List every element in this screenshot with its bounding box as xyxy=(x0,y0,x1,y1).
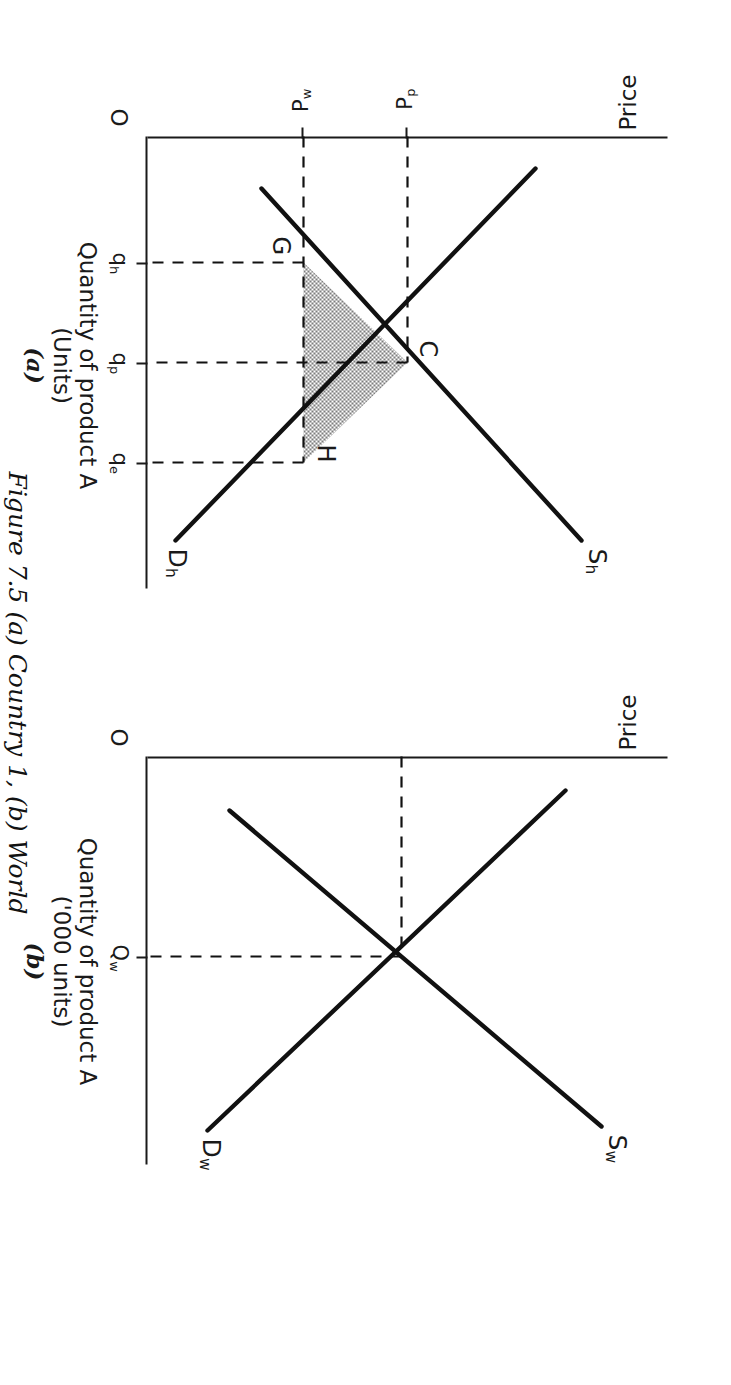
panel-a-label-qh: qh xyxy=(107,252,131,274)
panel-b-label-Qw: Qw xyxy=(107,944,131,971)
panel-b-xtitle-line1: Quantity of product A xyxy=(73,796,99,1126)
panel-a-origin-label: O xyxy=(105,108,131,126)
demand-curve-dw xyxy=(207,790,565,1130)
panel-a-point-h: H xyxy=(311,444,339,462)
panel-a-supply-label: Sh xyxy=(581,548,611,574)
panel-a-xtitle-line2: (Units) xyxy=(48,200,74,530)
panel-b-origin-label: O xyxy=(105,728,131,746)
panel-a-xtitle-line1: Quantity of product A xyxy=(73,200,99,530)
panel-b-supply-label: Sw xyxy=(601,1134,631,1163)
panel-b-demand-label: Dw xyxy=(195,1138,225,1170)
panel-a-label-qe: qe xyxy=(107,452,131,474)
panel-a-label-Pw: Pw xyxy=(289,88,313,112)
figure-caption: Figure 7.5 (a) Country 1, (b) World xyxy=(2,0,31,1385)
panel-b-quantity-axis-title: Quantity of product A ('000 units) (b) xyxy=(22,796,99,1126)
panel-a-label-qp: qp xyxy=(107,352,131,374)
panel-a-point-c: C xyxy=(413,340,441,357)
panel-a-label-Pp: Pp xyxy=(393,88,417,109)
panel-a-price-axis-title: Price xyxy=(615,74,641,130)
panel-a-point-g: G xyxy=(266,236,294,255)
figure-page: Sh Dh C G H Pp Pw Price qh qp qe O xyxy=(0,0,731,1385)
panel-b-price-axis-title: Price xyxy=(615,694,641,750)
panel-a-quantity-axis-title: Quantity of product A (Units) (a) xyxy=(22,200,99,530)
supply-curve-sw xyxy=(229,810,601,1126)
panel-b-xtitle-line2: ('000 units) xyxy=(48,796,74,1126)
panel-a-demand-label: Dh xyxy=(161,548,191,577)
demand-curve-dh xyxy=(175,168,535,540)
panel-country-1: Sh Dh C G H Pp Pw Price qh qp qe O xyxy=(0,40,731,640)
panel-world: Sw Dw Price Qw O Quantity of product A (… xyxy=(0,660,731,1220)
